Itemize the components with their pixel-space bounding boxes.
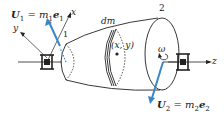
label-dm: dm <box>101 17 115 26</box>
label-omega: ω <box>158 45 165 54</box>
label-u2: U2 = m2e2 <box>157 100 210 113</box>
u1-e-subscript: 1 <box>59 15 63 23</box>
u1-vector-symbol: U <box>11 9 20 20</box>
label-axis-z: z <box>212 57 217 66</box>
end-face-2 <box>145 18 179 90</box>
mass-element-point <box>115 52 118 55</box>
label-point-xy: (x, y) <box>111 41 134 50</box>
label-axis-x: x <box>71 8 76 17</box>
body-bottom-edge <box>66 80 160 90</box>
label-plane-1: 1 <box>63 31 68 39</box>
u2-equals: = m <box>170 99 194 110</box>
label-axis-y: y <box>13 24 18 33</box>
label-plane-2: 2 <box>159 4 165 13</box>
dm-slice-hidden <box>116 29 125 86</box>
label-u1: U1 = m1e1 <box>11 10 64 23</box>
u1-equals: = m <box>24 9 48 20</box>
u2-e-subscript: 2 <box>205 105 209 113</box>
u2-vector <box>152 62 163 98</box>
u1-vector <box>49 22 60 46</box>
end-face-1-hidden <box>66 44 74 80</box>
u2-vector-symbol: U <box>157 99 166 110</box>
u2-arrowhead <box>148 96 155 104</box>
y-axis <box>22 34 47 58</box>
